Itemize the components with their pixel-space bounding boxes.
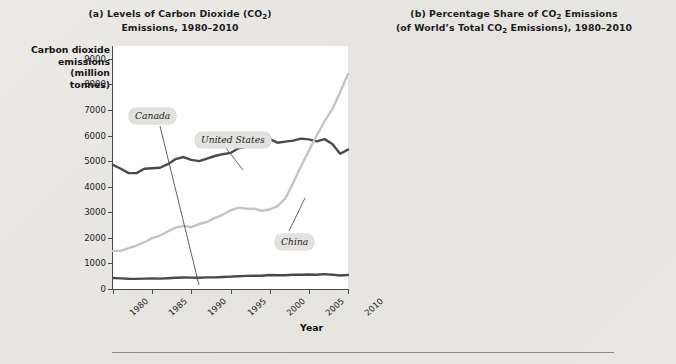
- series-label-china: China: [275, 234, 314, 250]
- chart-a-x-axis-label: Year: [300, 322, 323, 333]
- chart-b-title-line2-a: (of World’s Total CO: [396, 22, 502, 33]
- x-tick-mark: [191, 289, 192, 294]
- leader-line: [289, 198, 305, 231]
- x-tick-label: 1985: [167, 296, 190, 318]
- chart-b-title-line2-sub: 2: [502, 27, 507, 35]
- chart-a-title-sub: 2: [262, 13, 267, 21]
- chart-a-leader-lines: [113, 46, 348, 289]
- x-tick-label: 1990: [206, 296, 229, 318]
- series-label-canada: Canada: [129, 108, 176, 124]
- x-tick-label: 1980: [127, 296, 150, 318]
- footer-divider-rule: [112, 352, 614, 353]
- y-tick-label: 0: [101, 284, 113, 294]
- x-tick-label: 2000: [284, 296, 307, 318]
- chart-b-title-sub: 2: [556, 13, 561, 21]
- y-tick-label: 4000: [84, 182, 113, 192]
- x-tick-mark: [152, 289, 153, 294]
- y-tick-label: 8000: [84, 79, 113, 89]
- chart-panel-b: (b) Percentage Share of CO2 Emissions (o…: [352, 0, 676, 330]
- x-tick-mark: [348, 289, 349, 294]
- x-tick-mark: [113, 289, 114, 294]
- chart-b-title-line1: (b) Percentage Share of CO: [410, 8, 556, 19]
- series-label-united-states: United States: [195, 132, 271, 148]
- y-tick-label: 3000: [84, 207, 113, 217]
- x-tick-label: 1995: [245, 296, 268, 318]
- y-tick-label: 9000: [84, 54, 113, 64]
- chart-b-title: (b) Percentage Share of CO2 Emissions (o…: [352, 8, 676, 35]
- chart-a-title-line2: Emissions, 1980–2010: [121, 22, 238, 33]
- x-tick-label: 2005: [323, 296, 346, 318]
- x-tick-mark: [309, 289, 310, 294]
- y-tick-label: 1000: [84, 258, 113, 268]
- y-tick-label: 5000: [84, 156, 113, 166]
- chart-panel-a: (a) Levels of Carbon Dioxide (CO2) Emiss…: [0, 0, 360, 330]
- x-tick-mark: [231, 289, 232, 294]
- chart-a-title-line1: (a) Levels of Carbon Dioxide (CO: [89, 8, 263, 19]
- figure-page: (a) Levels of Carbon Dioxide (CO2) Emiss…: [0, 0, 676, 364]
- chart-a-title: (a) Levels of Carbon Dioxide (CO2) Emiss…: [0, 8, 360, 34]
- chart-a-title-line1-end: ): [267, 8, 271, 19]
- chart-b-title-line1-end: Emissions: [561, 8, 617, 19]
- y-axis-label-line-3: (million: [14, 67, 110, 79]
- y-tick-label: 2000: [84, 233, 113, 243]
- leader-line: [226, 148, 243, 170]
- chart-a-plot-area: 0100020003000400050006000700080009000198…: [112, 46, 348, 290]
- chart-b-title-line2-b: Emissions), 1980–2010: [507, 22, 632, 33]
- x-tick-mark: [270, 289, 271, 294]
- y-tick-label: 6000: [84, 131, 113, 141]
- y-tick-label: 7000: [84, 105, 113, 115]
- leader-line: [160, 126, 199, 285]
